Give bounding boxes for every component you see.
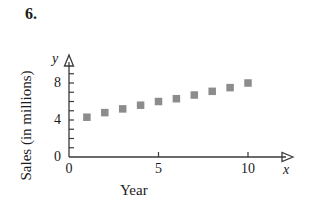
data-point-marker bbox=[173, 95, 181, 103]
data-point-marker bbox=[101, 109, 109, 117]
data-point-marker bbox=[119, 105, 127, 113]
data-point-marker bbox=[191, 91, 199, 99]
data-point-marker bbox=[83, 113, 91, 121]
y-axis-ticks bbox=[69, 74, 74, 148]
data-point-marker bbox=[244, 79, 252, 87]
data-point-marker bbox=[226, 84, 234, 92]
scatter-plot-canvas bbox=[0, 0, 309, 212]
x-axis-tick-label: 0 bbox=[59, 162, 79, 176]
y-axis-tick-label: 4 bbox=[47, 113, 61, 127]
x-axis-tick-label: 5 bbox=[149, 162, 169, 176]
data-point-marker bbox=[208, 88, 216, 96]
figure-container: 6. Sales (in millions) Year y x 048 0510 bbox=[0, 0, 309, 212]
y-axis-tick-label: 8 bbox=[47, 76, 61, 90]
data-point-markers bbox=[83, 79, 252, 121]
data-point-marker bbox=[137, 101, 145, 109]
x-axis-ticks bbox=[159, 152, 249, 157]
axes-group bbox=[65, 55, 294, 162]
data-point-marker bbox=[155, 98, 163, 106]
x-axis-tick-label: 10 bbox=[238, 162, 258, 176]
